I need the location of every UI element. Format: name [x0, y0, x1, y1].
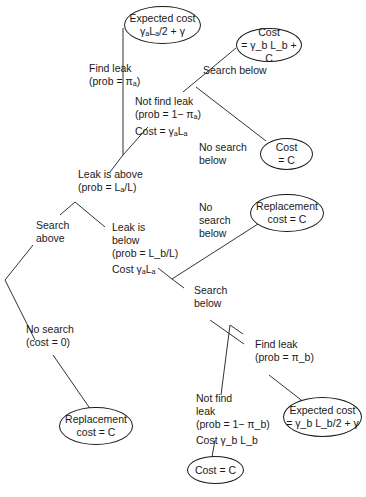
node-cost-search-below: Cost = γ_b L_b + C	[236, 28, 302, 62]
node-expected-cost-below: Expected cost = γ_b L_b/2 + γ	[283, 397, 362, 437]
node-cost-bottom: Cost = C	[187, 456, 244, 484]
label-find-leak-b: Find leak(prob = π_b)	[255, 338, 314, 364]
label-search-below-top: Search below	[203, 64, 267, 77]
node-formula: = C	[278, 154, 295, 167]
node-cost-no-search-below: Cost = C	[260, 138, 313, 170]
node-formula: γₐLₐ/2 + γ	[140, 25, 185, 38]
node-formula: cost = C	[77, 426, 116, 439]
node-label: Replacement	[256, 200, 318, 213]
node-label: Cost	[258, 26, 280, 39]
node-expected-cost-above: Expected cost γₐLₐ/2 + γ	[124, 6, 201, 44]
node-label: Cost = C	[195, 464, 236, 477]
label-no-search: No search(cost = 0)	[26, 323, 74, 349]
label-not-find-leak-a: Not find leak(prob = 1− πₐ) Cost = γₐLₐ	[135, 95, 201, 138]
label-find-leak-a: Find leak(prob = πₐ)	[89, 62, 140, 88]
label-leak-above: Leak is above(prob = Lₐ/L)	[78, 168, 143, 194]
node-label: Expected cost	[290, 404, 356, 417]
node-label: Expected cost	[130, 12, 196, 25]
label-leak-below: Leak isbelow (prob = L_b/L)Cost γₐLₐ	[112, 221, 178, 276]
label-not-find-leak-b: Not findleak (prob = 1− π_b)Cost γ_b L_b	[196, 392, 270, 447]
label-no-search-below-mid: Nosearchbelow	[199, 201, 231, 240]
label-search-below-mid: Searchbelow	[194, 284, 227, 310]
label-no-search-below-top: No searchbelow	[199, 141, 247, 167]
node-replacement-right: Replacement cost = C	[250, 194, 324, 232]
node-replacement-left: Replacement cost = C	[59, 407, 133, 445]
node-formula: = γ_b L_b/2 + γ	[286, 417, 358, 430]
node-label: Replacement	[65, 413, 127, 426]
node-formula: = γ_b L_b + C	[237, 39, 301, 65]
node-label: Cost	[276, 141, 298, 154]
node-formula: cost = C	[268, 213, 307, 226]
label-search-above: Searchabove	[36, 219, 69, 245]
